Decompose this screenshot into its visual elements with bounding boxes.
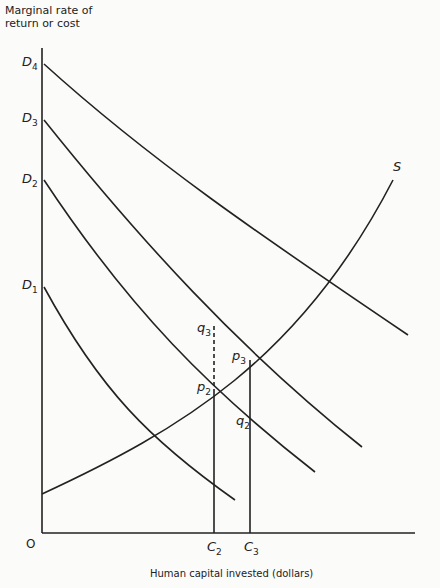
diagram-canvas [0,0,440,588]
tick-C3: C3 [244,540,259,559]
label-D1: D1 [22,278,38,297]
label-p2: p2 [197,380,211,399]
curve-D2 [44,180,315,472]
label-D3: D3 [22,111,38,130]
label-p3: p3 [232,349,246,368]
y-axis-title-line1: Marginal rate of [5,4,92,17]
x-axis-title: Human capital invested (dollars) [150,567,313,580]
label-q3: q3 [197,321,211,340]
label-D2: D2 [22,172,38,191]
curve-D4 [44,64,408,335]
origin-label: O [26,538,35,551]
curve-S [42,180,393,494]
y-axis-title: Marginal rate of return or cost [5,4,92,30]
tick-C2: C2 [207,540,222,559]
label-D4: D4 [22,55,38,74]
label-S: S [393,160,401,173]
label-q2: q2 [236,414,250,433]
y-axis-title-line2: return or cost [5,17,92,30]
